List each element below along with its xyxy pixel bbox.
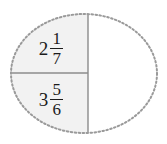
right-region — [88, 0, 167, 144]
ellipse-graphic — [0, 0, 167, 144]
fraction-ellipse-diagram: 2 1 7 3 5 6 — [0, 0, 167, 144]
